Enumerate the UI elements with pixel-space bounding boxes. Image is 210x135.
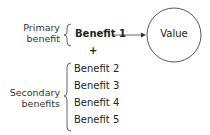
secondary-benefits-label: Secondary benefits (2, 87, 60, 109)
secondary-benefit: Benefit 3 (74, 80, 119, 91)
plus-sign: + (89, 45, 97, 56)
arrow-head (141, 33, 146, 38)
secondary-benefit: Benefit 4 (74, 97, 119, 108)
value-node-label: Value (147, 28, 201, 39)
secondary-brace (64, 63, 71, 131)
secondary-benefit: Benefit 2 (74, 63, 119, 74)
primary-brace (64, 24, 71, 46)
primary-benefit: Benefit 1 (75, 28, 126, 39)
secondary-benefit: Benefit 5 (74, 114, 119, 125)
primary-benefit-label: Primary benefit (10, 22, 60, 44)
